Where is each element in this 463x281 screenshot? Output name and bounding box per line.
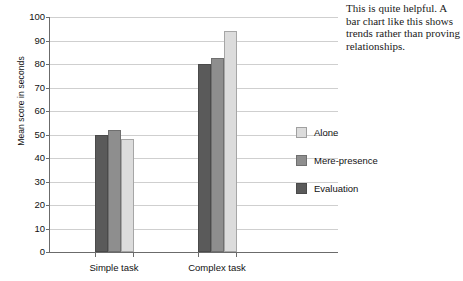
y-tick-mark xyxy=(46,182,49,183)
gridline xyxy=(50,17,338,18)
y-tick-mark xyxy=(46,229,49,230)
bar-mere-presence-simple-task xyxy=(108,130,121,252)
y-tick-mark xyxy=(46,111,49,112)
y-tick-mark xyxy=(46,158,49,159)
gridline xyxy=(50,88,338,89)
y-tick-mark xyxy=(46,88,49,89)
x-tick-mark xyxy=(198,253,199,257)
y-tick-mark xyxy=(46,41,49,42)
legend-swatch-icon xyxy=(296,127,307,138)
x-tick-mark xyxy=(236,253,237,257)
y-tick-mark xyxy=(46,64,49,65)
legend-item-evaluation[interactable]: Evaluation xyxy=(296,183,358,194)
gridline xyxy=(50,64,338,65)
y-tick-label: 60 xyxy=(34,106,45,116)
y-tick-label: 80 xyxy=(34,59,45,69)
legend-label: Mere-presence xyxy=(314,156,378,166)
legend-swatch-icon xyxy=(296,183,307,194)
annotation-note: This is quite helpful. A bar chart like … xyxy=(346,2,461,52)
y-tick-mark xyxy=(46,205,49,206)
y-tick-label: 30 xyxy=(34,177,45,187)
y-tick-mark xyxy=(46,17,49,18)
y-tick-label: 40 xyxy=(34,153,45,163)
bar-chart-figure: Mean score in seconds 010203040506070809… xyxy=(0,0,463,281)
y-tick-mark xyxy=(46,252,49,253)
gridline xyxy=(50,205,338,206)
x-tick-mark xyxy=(133,253,134,257)
y-tick-label: 90 xyxy=(34,36,45,46)
y-tick-label: 20 xyxy=(34,200,45,210)
y-tick-label: 0 xyxy=(40,247,45,257)
gridline xyxy=(50,229,338,230)
bar-evaluation-complex-task xyxy=(198,64,211,252)
gridline xyxy=(50,41,338,42)
y-axis-title: Mean score in seconds xyxy=(16,26,26,176)
y-tick-label: 100 xyxy=(29,12,45,22)
x-category-label: Simple task xyxy=(89,262,138,273)
y-tick-label: 10 xyxy=(34,224,45,234)
gridline xyxy=(50,182,338,183)
legend-item-mere-presence[interactable]: Mere-presence xyxy=(296,155,378,166)
y-tick-label: 70 xyxy=(34,83,45,93)
bar-evaluation-simple-task xyxy=(95,135,108,253)
bar-alone-simple-task xyxy=(121,139,134,252)
y-tick-label: 50 xyxy=(34,130,45,140)
legend-label: Alone xyxy=(314,128,338,138)
x-tick-mark xyxy=(95,253,96,257)
legend-label: Evaluation xyxy=(314,184,358,194)
y-tick-mark xyxy=(46,135,49,136)
gridline xyxy=(50,158,338,159)
plot-area: 0102030405060708090100 Simple taskComple… xyxy=(49,17,338,253)
bar-mere-presence-complex-task xyxy=(211,58,224,252)
gridline xyxy=(50,135,338,136)
x-category-label: Complex task xyxy=(188,262,246,273)
legend-item-alone[interactable]: Alone xyxy=(296,127,338,138)
legend-swatch-icon xyxy=(296,155,307,166)
x-axis-line xyxy=(49,252,338,253)
bar-alone-complex-task xyxy=(224,31,237,252)
gridline xyxy=(50,111,338,112)
